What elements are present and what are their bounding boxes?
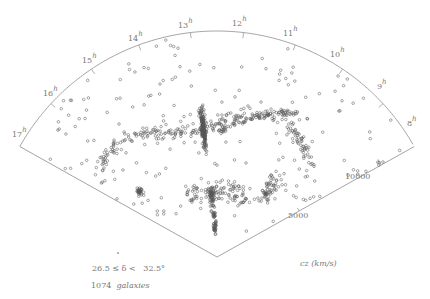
declination-range-label: 26.5 ≤ δ < 32.5° [92, 264, 165, 273]
cz-tick-label-5000: 5000 [288, 211, 308, 220]
hour-label-15h: 15h [82, 53, 97, 65]
galaxy-count-label: 1074 galaxies [91, 281, 150, 290]
hour-label-10h: 10h [330, 47, 345, 59]
galaxy-count-word: galaxies [116, 281, 149, 290]
hour-label-16h: 16h [43, 86, 58, 98]
galaxy-points [49, 39, 401, 254]
galaxy-count-number: 1074 [91, 281, 111, 290]
hour-label-17h: 17h [12, 127, 27, 139]
cz-axis-label: cz (km/s) [300, 259, 337, 268]
wedge-plot [0, 0, 430, 299]
hour-label-11h: 11h [283, 26, 298, 38]
hour-label-8h: 8h [407, 116, 417, 128]
cz-tick-label-10000: 10000 [345, 172, 370, 181]
hour-label-13h: 13h [178, 18, 193, 30]
hour-label-9h: 9h [377, 79, 387, 91]
hour-label-12h: 12h [232, 16, 247, 28]
hour-label-14h: 14h [128, 31, 143, 43]
